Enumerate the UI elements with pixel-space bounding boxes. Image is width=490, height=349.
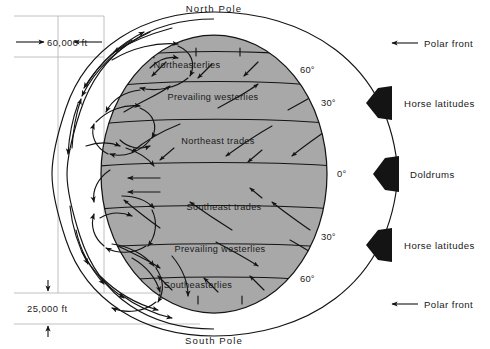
- label-lat-30-north: 30°: [321, 97, 336, 108]
- label-polar-front-north: Polar front: [424, 38, 473, 49]
- altitude-25000-dimension: 25,000 ft: [27, 280, 68, 337]
- label-lat-30-south: 30°: [321, 231, 336, 242]
- altitude-60000-dimension: 60,000 ft: [16, 37, 102, 48]
- label-horse-latitudes-south: Horse latitudes: [404, 240, 475, 251]
- annotation-doldrums-group: Doldrums: [373, 156, 455, 192]
- label-northeast-trades: Northeast trades: [181, 136, 255, 146]
- label-southeast-trades: Southeast trades: [186, 202, 261, 212]
- label-polar-front-south: Polar front: [424, 299, 473, 310]
- globe: [60, 35, 370, 313]
- altitude-60000-label: 60,000 ft: [47, 37, 88, 48]
- altitude-25000-label: 25,000 ft: [27, 303, 68, 314]
- label-lat-60-south: 60°: [300, 273, 315, 284]
- circulation-diagram-page: 60,000 ft 25,000 ft: [0, 0, 490, 349]
- label-north-pole: North Pole: [186, 3, 242, 14]
- label-lat-60-north: 60°: [300, 64, 315, 75]
- label-prevailing-westerlies-south: Prevailing westerlies: [174, 244, 265, 254]
- annotation-polar-front-south-group: Polar front: [392, 299, 473, 310]
- block-arrow-north-horse: [366, 86, 392, 120]
- label-lat-0-equator: 0°: [337, 168, 346, 179]
- annotation-horse-latitudes-south-group: Horse latitudes: [366, 228, 475, 262]
- atmospheric-circulation-diagram: 60,000 ft 25,000 ft: [0, 0, 490, 349]
- label-horse-latitudes-north: Horse latitudes: [404, 98, 475, 109]
- block-arrow-doldrums: [373, 156, 399, 192]
- label-prevailing-westerlies-north: Prevailing westerlies: [167, 92, 258, 102]
- label-southeasterlies: Southeasterlies: [164, 280, 233, 290]
- label-doldrums: Doldrums: [410, 169, 455, 180]
- annotation-polar-front-north-group: Polar front: [392, 38, 473, 49]
- block-arrow-south-horse: [366, 228, 392, 262]
- label-south-pole: South Pole: [185, 335, 243, 346]
- annotation-horse-latitudes-north-group: Horse latitudes: [366, 86, 475, 120]
- globe-disc: [101, 35, 327, 313]
- label-northeasterlies: Northeasterlies: [153, 60, 220, 70]
